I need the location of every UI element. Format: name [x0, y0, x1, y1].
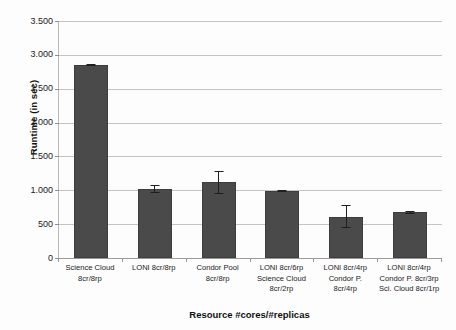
error-bar — [406, 211, 415, 214]
x-axis-tick-mark — [313, 258, 314, 262]
y-axis-tick-label: 1.000 — [30, 186, 53, 195]
y-axis-tick-label: 3.000 — [30, 50, 53, 59]
error-bar-stem — [218, 171, 219, 194]
x-axis-category-line: 8cr/8rp — [182, 274, 254, 285]
error-bar-cap-bottom — [150, 192, 159, 193]
bar — [393, 212, 427, 258]
x-axis-category-label: LONI 8cr/4rpCondor P. 8cr/3rpSci. Cloud … — [373, 263, 445, 295]
x-axis-category-label: Science Cloud8cr/8rp — [54, 263, 126, 284]
y-axis-tick-labels: 3.5003.0002.5002.0001.5001.0005000 — [8, 0, 56, 330]
bar-group — [378, 21, 442, 258]
error-bar-cap-top — [150, 185, 159, 186]
x-axis-category-line: LONI 8cr/4rp — [373, 263, 445, 274]
x-axis-category-line: LONI 8cr/6rp — [246, 263, 318, 274]
error-bar-cap-bottom — [214, 193, 223, 194]
error-bar-cap-bottom — [278, 191, 287, 192]
error-bar-cap-bottom — [406, 213, 415, 214]
y-axis-tick-label: 0 — [48, 254, 53, 263]
x-axis-tick-mark — [58, 258, 59, 262]
x-axis-category-line: Condor P. — [309, 274, 381, 285]
y-axis-tick-label: 2.000 — [30, 118, 53, 127]
bar — [265, 191, 299, 258]
x-axis-category-line: LONI 8cr/4rp — [309, 263, 381, 274]
plot-area — [58, 21, 442, 258]
x-axis-title: Resource #cores/#replicas — [58, 309, 441, 320]
x-axis-category-line: Condor Pool — [182, 263, 254, 274]
bar-group — [123, 21, 187, 258]
x-axis-tick-mark — [441, 258, 442, 262]
bar-group — [59, 21, 123, 258]
x-axis-category-labels: Science Cloud8cr/8rpLONI 8cr/8rpCondor P… — [58, 263, 441, 308]
error-bar-cap-top — [214, 171, 223, 172]
x-axis-tick-mark — [250, 258, 251, 262]
bar-group — [251, 21, 315, 258]
x-axis-category-label: Condor Pool8cr/8rp — [182, 263, 254, 284]
x-axis-category-line: LONI 8cr/8rp — [118, 263, 190, 274]
bar — [138, 189, 172, 258]
x-axis-category-line: 8cr/8rp — [54, 274, 126, 285]
bar-chart: Runtime (in sec) 3.5003.0002.5002.0001.5… — [0, 0, 456, 330]
error-bar-stem — [346, 205, 347, 228]
x-axis-tick-mark — [377, 258, 378, 262]
x-axis-category-label: LONI 8cr/8rp — [118, 263, 190, 274]
y-axis-tick-label: 1.500 — [30, 152, 53, 161]
x-axis-tick-mark — [122, 258, 123, 262]
x-axis-category-line: Science Cloud — [246, 274, 318, 285]
error-bar-cap-bottom — [342, 227, 351, 228]
error-bar-cap-top — [342, 205, 351, 206]
error-bar — [150, 185, 159, 193]
x-axis-category-label: LONI 8cr/6rpScience Cloud8cr/2rp — [246, 263, 318, 295]
x-axis-category-label: LONI 8cr/4rpCondor P.8cr/4rp — [309, 263, 381, 295]
x-axis-category-line: 8cr/4rp — [309, 284, 381, 295]
x-axis-category-line: Condor P. 8cr/3rp — [373, 274, 445, 285]
bar-group — [187, 21, 251, 258]
x-axis-category-line: Sci. Cloud 8cr/1rp — [373, 284, 445, 295]
bar-group — [314, 21, 378, 258]
x-axis-tick-mark — [186, 258, 187, 262]
x-axis-category-line: 8cr/2rp — [246, 284, 318, 295]
y-axis-tick-label: 2.500 — [30, 84, 53, 93]
bar — [74, 65, 108, 258]
error-bar-cap-bottom — [86, 65, 95, 66]
error-bar — [342, 205, 351, 228]
y-axis-tick-label: 3.500 — [30, 17, 53, 26]
y-axis-tick-label: 500 — [38, 220, 53, 229]
bars-layer — [59, 21, 442, 258]
error-bar — [86, 64, 95, 67]
x-axis-category-line: Science Cloud — [54, 263, 126, 274]
error-bar — [214, 171, 223, 194]
error-bar — [278, 190, 287, 192]
